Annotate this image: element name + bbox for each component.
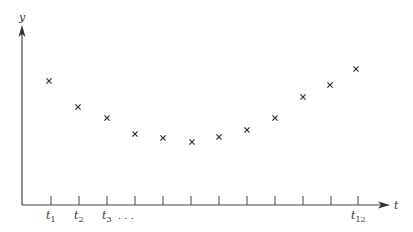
tick-label-t2: t2 bbox=[74, 209, 84, 224]
tick-label-t1: t1 bbox=[46, 209, 56, 224]
data-points bbox=[46, 66, 358, 144]
data-point-x-marker-icon bbox=[189, 139, 194, 144]
tick-label-t12: t12 bbox=[351, 209, 366, 224]
data-point-x-marker-icon bbox=[75, 104, 80, 109]
data-point-x-marker-icon bbox=[300, 94, 305, 99]
data-point-x-marker-icon bbox=[327, 82, 332, 87]
data-point-x-marker-icon bbox=[244, 127, 249, 132]
x-axis-label: t bbox=[394, 199, 399, 212]
data-point-x-marker-icon bbox=[132, 131, 137, 136]
data-point-x-marker-icon bbox=[272, 115, 277, 120]
data-point-x-marker-icon bbox=[104, 115, 109, 120]
x-ticks bbox=[51, 196, 358, 205]
data-point-x-marker-icon bbox=[46, 78, 51, 83]
tick-label-t3: t3 bbox=[102, 209, 112, 224]
data-point-x-marker-icon bbox=[160, 135, 165, 140]
y-axis-label: y bbox=[18, 11, 26, 24]
data-point-x-marker-icon bbox=[353, 66, 358, 71]
tick-ellipsis: . . . bbox=[118, 210, 134, 221]
data-point-x-marker-icon bbox=[216, 134, 221, 139]
scatter-chart: y t t1 t2 t3 . . . t12 bbox=[0, 0, 413, 232]
